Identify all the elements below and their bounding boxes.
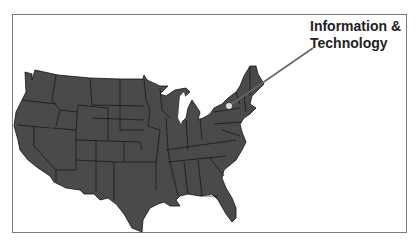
us-outline [14,66,264,232]
location-marker [226,103,232,109]
callout-label: Information & Technology [310,18,401,52]
callout-line-2: Technology [310,35,401,52]
callout-leader-line [229,48,313,106]
callout-line-1: Information & [310,18,401,35]
